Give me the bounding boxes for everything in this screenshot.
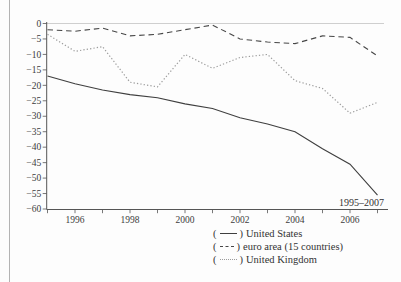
solid-line-sample: [220, 233, 237, 234]
series-line-united-states: [48, 76, 378, 195]
y-tick-label: −40: [26, 142, 41, 152]
legend-label-united-kingdom: United Kingdom: [246, 254, 317, 265]
date-range-annotation: 1995–2007: [339, 197, 384, 208]
y-tick-label: −55: [26, 189, 41, 199]
series-line-united-kingdom: [48, 34, 378, 113]
x-tick-label: 2006: [341, 215, 360, 225]
legend-label-euro-area: euro area (15 countries): [243, 241, 343, 252]
axes: [47, 22, 388, 210]
y-tick-label: −35: [26, 127, 41, 137]
dashed-line-sample: [220, 246, 234, 247]
x-tick-label: 2004: [286, 215, 305, 225]
y-tick-label: −60: [26, 204, 41, 214]
legend-paren-close: ): [240, 228, 244, 239]
y-tick-label: −10: [26, 50, 41, 60]
y-tick-label: −30: [26, 111, 41, 121]
legend: ()United States ()euro area (15 countrie…: [213, 228, 343, 267]
y-tick-label: 0: [36, 19, 41, 29]
legend-item-united-kingdom: ()United Kingdom: [213, 254, 343, 267]
dotted-line-sample: [220, 259, 237, 260]
figure-page: 1996199820002002200420060−5−10−15−20−25−…: [0, 0, 401, 282]
y-tick-label: −5: [31, 34, 41, 44]
legend-paren-open: (: [213, 254, 217, 265]
x-tick-label: 1996: [66, 215, 85, 225]
series-line-euro-area-15-countries-: [48, 25, 378, 56]
y-tick-label: −15: [26, 65, 41, 75]
legend-paren-close: ): [240, 254, 244, 265]
x-tick-label: 2002: [231, 215, 250, 225]
y-tick-label: −25: [26, 96, 41, 106]
legend-item-euro-area: ()euro area (15 countries): [213, 241, 343, 254]
y-tick-label: −45: [26, 158, 41, 168]
legend-label-united-states: United States: [246, 228, 302, 239]
legend-paren-open: (: [213, 228, 217, 239]
legend-paren-open: (: [213, 241, 217, 252]
legend-item-united-states: ()United States: [213, 228, 343, 241]
x-tick-label: 2000: [176, 215, 195, 225]
legend-paren-close: ): [237, 241, 241, 252]
x-tick-label: 1998: [121, 215, 140, 225]
y-tick-label: −50: [26, 173, 41, 183]
y-tick-label: −20: [26, 81, 41, 91]
